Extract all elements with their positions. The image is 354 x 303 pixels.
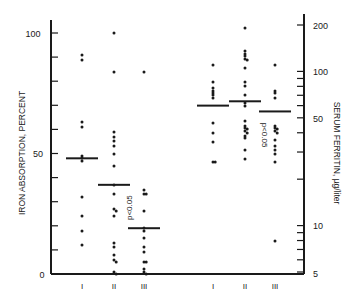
- data-point: [274, 149, 277, 152]
- data-point: [274, 153, 277, 156]
- data-point: [143, 237, 146, 240]
- right-y-label-200: 200: [313, 21, 328, 31]
- data-point: [113, 246, 116, 249]
- data-point: [246, 132, 249, 135]
- data-point: [113, 193, 116, 196]
- data-point: [113, 71, 116, 74]
- data-point: [244, 85, 247, 88]
- x-label-right-III: III: [272, 282, 279, 291]
- data-points: [81, 27, 279, 276]
- data-point: [81, 160, 84, 163]
- data-point: [274, 64, 277, 67]
- data-point: [212, 94, 215, 97]
- left-y-label-100: 100: [25, 29, 40, 39]
- data-point: [244, 55, 247, 58]
- p-value-left: p<0.05: [125, 195, 134, 220]
- data-point: [145, 261, 148, 264]
- x-label-left-II: II: [112, 282, 116, 291]
- left-y-label-50: 50: [33, 149, 43, 159]
- data-point: [244, 105, 247, 108]
- data-point: [274, 139, 277, 142]
- data-point: [143, 230, 146, 233]
- data-point: [212, 132, 215, 135]
- data-point: [113, 136, 116, 139]
- right-y-label-10: 10: [313, 221, 323, 231]
- data-point: [81, 244, 84, 247]
- data-point: [113, 131, 116, 134]
- data-point: [212, 141, 215, 144]
- data-point: [143, 268, 146, 271]
- data-point: [115, 210, 118, 213]
- data-point: [81, 54, 84, 57]
- data-point: [274, 145, 277, 148]
- iron-ferritin-chart: 100 50 0 200 100 50 10 5 IRON ABSORPTION…: [0, 0, 354, 303]
- left-y-ticks: [51, 33, 58, 274]
- data-point: [212, 87, 215, 90]
- data-point: [244, 149, 247, 152]
- data-point: [244, 120, 247, 123]
- data-point: [212, 97, 215, 100]
- x-label-left-III: III: [141, 282, 148, 291]
- data-point: [212, 81, 215, 84]
- data-point: [274, 161, 277, 164]
- right-y-label-5: 5: [313, 269, 318, 279]
- right-y-label-100: 100: [313, 67, 328, 77]
- data-point: [212, 64, 215, 67]
- left-y-axis-title: IRON ABSORPTION, PERCENT: [17, 91, 27, 215]
- data-point: [212, 122, 215, 125]
- data-point: [274, 97, 277, 100]
- data-point: [143, 71, 146, 74]
- data-point: [115, 261, 118, 264]
- data-point: [113, 145, 116, 148]
- data-point: [244, 94, 247, 97]
- right-y-ticks: [297, 25, 304, 272]
- data-point: [113, 242, 116, 245]
- data-point: [244, 81, 247, 84]
- right-y-label-50: 50: [313, 114, 323, 124]
- data-point: [214, 161, 217, 164]
- left-y-label-0: 0: [39, 270, 44, 280]
- data-point: [81, 121, 84, 124]
- data-point: [115, 273, 118, 276]
- data-point: [276, 132, 279, 135]
- data-point: [143, 210, 146, 213]
- data-point: [113, 254, 116, 257]
- x-label-right-II: II: [243, 282, 247, 291]
- data-point: [113, 165, 116, 168]
- data-point: [81, 59, 84, 62]
- data-point: [113, 153, 116, 156]
- data-point: [113, 32, 116, 35]
- data-point: [274, 240, 277, 243]
- p-value-right: p<0.05: [260, 123, 269, 148]
- data-point: [113, 140, 116, 143]
- data-point: [113, 215, 116, 218]
- data-point: [244, 67, 247, 70]
- data-point: [81, 230, 84, 233]
- data-point: [246, 59, 249, 62]
- data-point: [244, 137, 247, 140]
- median-lines: [66, 101, 291, 228]
- data-point: [244, 50, 247, 53]
- data-point: [244, 27, 247, 30]
- data-point: [81, 126, 84, 129]
- x-label-left-I: I: [81, 282, 83, 291]
- data-point: [145, 193, 148, 196]
- x-label-right-I: I: [212, 282, 214, 291]
- data-point: [143, 251, 146, 254]
- data-point: [81, 215, 84, 218]
- data-point: [81, 196, 84, 199]
- data-point: [244, 158, 247, 161]
- data-point: [143, 246, 146, 249]
- data-point: [145, 273, 148, 276]
- right-y-axis-title: SERUM FERRITIN, µg/liter: [332, 102, 342, 205]
- data-point: [274, 92, 277, 95]
- data-point: [143, 189, 146, 192]
